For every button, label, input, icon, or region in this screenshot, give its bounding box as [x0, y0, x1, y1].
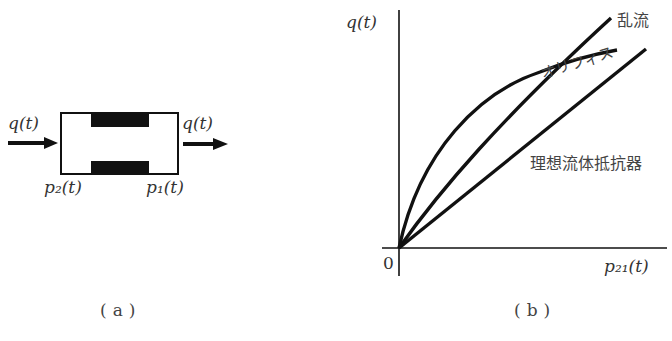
axes — [382, 10, 667, 276]
orifice-curve — [399, 50, 617, 248]
output-flow-label: q(t) — [182, 113, 213, 133]
upper-restriction-block — [91, 113, 149, 127]
x-axis-label: p₂₁(t) — [604, 256, 649, 276]
pressure-p1-label: p₁(t) — [146, 177, 184, 197]
input-flow-label: q(t) — [8, 113, 39, 133]
pressure-p2-label: p₂(t) — [44, 177, 82, 197]
origin-label: 0 — [383, 253, 394, 273]
turbulent-label: 乱流 — [617, 7, 649, 31]
input-arrow-icon — [8, 137, 58, 149]
output-arrow-icon — [183, 138, 228, 150]
y-axis-label: q(t) — [346, 12, 377, 32]
ideal-resistor-label: 理想流体抵抗器 — [530, 150, 642, 174]
caption-a: (a) — [100, 300, 141, 320]
lower-restriction-block — [91, 161, 149, 174]
resistor-element — [61, 113, 178, 174]
caption-b: (b) — [514, 300, 556, 320]
